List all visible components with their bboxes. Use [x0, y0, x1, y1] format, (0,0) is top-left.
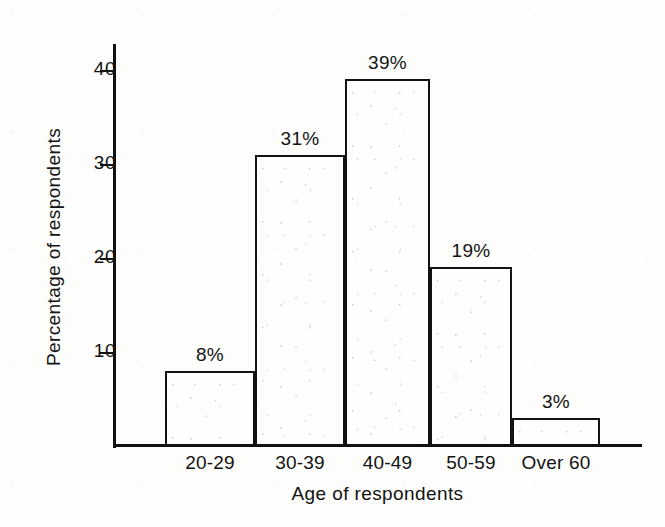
bar-40-49[interactable] [345, 79, 430, 446]
bar-texture [257, 157, 343, 444]
bar-value-label-40-49: 39% [345, 52, 430, 74]
bar-50-59[interactable] [430, 267, 512, 446]
x-category-label-over-60: Over 60 [500, 452, 612, 474]
chart-page: 40 30 20 10 8% 31% [0, 0, 665, 527]
bar-value-label-30-39: 31% [255, 128, 345, 150]
y-tick-label-20: 20 [72, 246, 116, 268]
bar-texture [514, 420, 598, 444]
bar-texture [347, 81, 428, 444]
bar-30-39[interactable] [255, 155, 345, 446]
bar-texture [167, 373, 253, 444]
y-axis-title: Percentage of respondents [43, 87, 65, 407]
y-tick-label-30: 30 [72, 152, 116, 174]
bar-value-label-50-59: 19% [430, 240, 512, 262]
bar-chart: 40 30 20 10 8% 31% [0, 0, 665, 527]
bar-over-60[interactable] [512, 418, 600, 446]
x-axis-title: Age of respondents [113, 483, 642, 505]
y-tick-label-40: 40 [72, 58, 116, 80]
y-tick-label-10: 10 [72, 340, 116, 362]
bar-value-label-20-29: 8% [165, 344, 255, 366]
bar-texture [432, 269, 510, 444]
bar-20-29[interactable] [165, 371, 255, 446]
bar-value-label-over-60: 3% [512, 391, 600, 413]
